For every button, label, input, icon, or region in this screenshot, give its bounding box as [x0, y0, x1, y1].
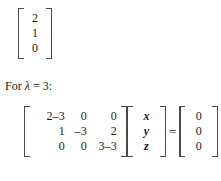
- eigenvector-entries: 2 1 0: [25, 8, 45, 59]
- right-bracket-icon: [120, 106, 127, 157]
- right-bracket-icon: [45, 8, 52, 59]
- matrix-row: 0: [192, 124, 205, 139]
- matrix-equation: 2–3 0 0 1 –3 2 0 0 3–3: [24, 106, 218, 157]
- result-zero-vector: 0 0 0: [179, 106, 218, 157]
- matrix-cell: 0: [30, 41, 40, 56]
- matrix-row: 0: [192, 109, 205, 124]
- right-bracket-icon: [211, 106, 218, 157]
- lambda-case-relation: = 3:: [30, 79, 52, 93]
- matrix-row: x: [138, 109, 155, 124]
- left-bracket-icon: [18, 8, 25, 59]
- matrix-cell: 1: [30, 26, 40, 41]
- matrix-row: y: [138, 124, 155, 139]
- matrix-row: 0: [192, 139, 205, 154]
- matrix-cell: 0: [35, 139, 65, 154]
- matrix-cell: 0: [87, 109, 117, 124]
- matrix-row: 2: [30, 11, 40, 26]
- matrix-cell: z: [138, 139, 155, 154]
- lambda-case-label: For λ = 3:: [5, 79, 52, 93]
- matrix-cell: 0: [192, 109, 205, 124]
- table-row: 1 –3 2: [35, 124, 117, 139]
- coefficient-matrix-entries: 2–3 0 0 1 –3 2 0 0 3–3: [31, 106, 120, 157]
- matrix-cell: y: [138, 124, 155, 139]
- matrix-cell: 0: [192, 124, 205, 139]
- matrix-cell: 1: [35, 124, 65, 139]
- eigenvector-column-vector: 2 1 0: [18, 8, 52, 59]
- left-bracket-icon: [24, 106, 31, 157]
- document-page: 2 1 0 For λ = 3: 2–3 0 0 1: [0, 0, 221, 181]
- matrix-cell: 0: [65, 139, 87, 154]
- variable-vector: x y z: [127, 106, 166, 157]
- matrix-cell: 0: [65, 109, 87, 124]
- matrix-row: 1: [30, 26, 40, 41]
- matrix-row: 0: [30, 41, 40, 56]
- table-row: 2–3 0 0: [35, 109, 117, 124]
- result-vector-entries: 0 0 0: [186, 106, 211, 157]
- matrix-cell: 2: [30, 11, 40, 26]
- right-bracket-icon: [159, 106, 166, 157]
- matrix-cell: 3–3: [87, 139, 117, 154]
- left-bracket-icon: [127, 106, 134, 157]
- coefficient-matrix: 2–3 0 0 1 –3 2 0 0 3–3: [24, 106, 127, 157]
- equals-sign: =: [166, 125, 179, 138]
- matrix-cell: 2: [87, 124, 117, 139]
- left-bracket-icon: [179, 106, 186, 157]
- matrix-cell: x: [138, 109, 155, 124]
- matrix-cell: 0: [192, 139, 205, 154]
- variable-vector-entries: x y z: [134, 106, 159, 157]
- matrix-cell: –3: [65, 124, 87, 139]
- matrix-row: z: [138, 139, 155, 154]
- matrix-cell: 2–3: [35, 109, 65, 124]
- lambda-case-prefix: For: [5, 79, 25, 93]
- table-row: 0 0 3–3: [35, 139, 117, 154]
